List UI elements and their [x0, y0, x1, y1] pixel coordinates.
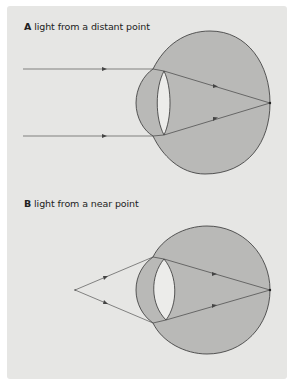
arrow-a-top — [102, 67, 107, 71]
eyeball-a — [136, 31, 270, 174]
eye-diagram — [0, 0, 294, 386]
focal-point-a — [269, 102, 271, 104]
arrow-b-top — [103, 276, 108, 280]
arrow-b-bottom — [103, 300, 108, 304]
arrow-a-bottom — [102, 134, 107, 138]
panel-b-diagram — [74, 226, 271, 354]
focal-point-b — [269, 289, 271, 291]
near-point-source — [74, 289, 76, 291]
panel-a-diagram — [23, 31, 271, 174]
